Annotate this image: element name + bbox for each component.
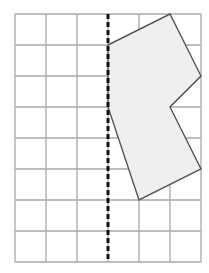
reflection-grid-diagram (0, 0, 209, 273)
